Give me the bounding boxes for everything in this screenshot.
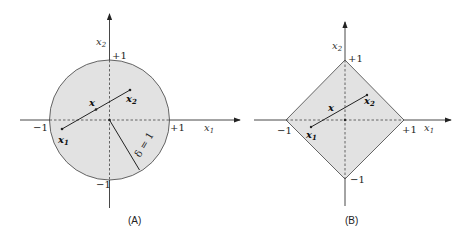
axis-label-x1: x1 <box>204 122 214 135</box>
panel-a: x2 x1 +1 −1 −1 +1 x1 x2 x δ = 1 (A) <box>20 14 240 226</box>
diagram-canvas: x2 x1 +1 −1 −1 +1 x1 x2 x δ = 1 (A) x2 x… <box>0 0 467 240</box>
tick-top: +1 <box>112 50 127 61</box>
tick-bottom: −1 <box>96 179 111 190</box>
tick-left: −1 <box>277 125 292 136</box>
label-x: x <box>327 102 335 113</box>
axis-label-x2: x2 <box>332 40 343 53</box>
panel-b: x2 x1 +1 −1 −1 +1 x1 x2 x (B) <box>254 22 451 226</box>
label-x: x <box>88 97 96 108</box>
tick-top: +1 <box>348 53 363 64</box>
tick-left: −1 <box>33 122 48 133</box>
axis-label-x2: x2 <box>96 36 107 49</box>
caption-b: (B) <box>345 215 358 226</box>
point-x2 <box>129 89 132 92</box>
tick-right: +1 <box>402 124 417 135</box>
caption-a: (A) <box>128 215 141 226</box>
point-x <box>95 108 98 111</box>
tick-bottom: −1 <box>350 174 365 185</box>
point-x1 <box>61 128 64 131</box>
point-x1 <box>310 126 312 128</box>
origin-point <box>344 119 346 121</box>
axis-label-x1: x1 <box>424 122 434 135</box>
tick-right: +1 <box>170 122 185 133</box>
